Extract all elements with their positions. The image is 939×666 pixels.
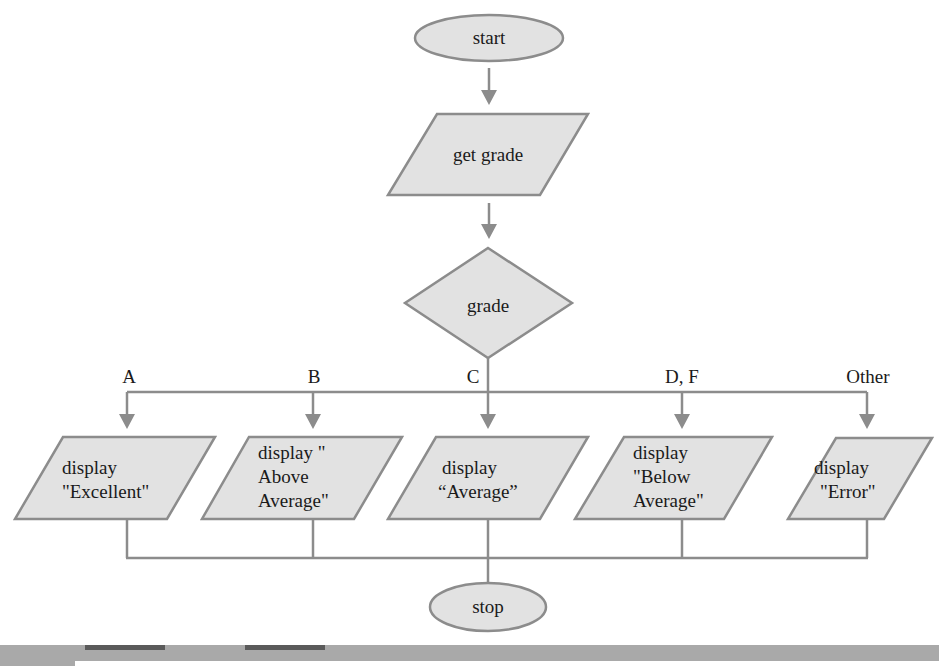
stop-terminal: stop [430,583,546,631]
start-label: start [473,27,506,48]
decision-label: grade [467,295,509,316]
output-excellent: display "Excellent" [15,437,215,519]
output-average: display “Average” [388,437,588,519]
footer-page-edge [75,661,939,666]
footer-accent-segment [245,645,325,650]
decision-grade: grade [405,248,572,358]
branch-arrows [119,392,875,429]
branch-label-other: Other [846,366,890,387]
input-get-grade: get grade [388,114,588,195]
input-label: get grade [453,144,523,165]
branch-label-c: C [467,366,480,387]
arrow-start-to-input [481,68,497,105]
output-error: display "Error" [788,438,932,519]
flowchart: start get grade grade A B C D, F Other [0,0,939,666]
branch-label-b: B [308,366,321,387]
branch-label-a: A [122,366,136,387]
stop-label: stop [472,596,504,617]
footer-accent-segment [85,645,165,650]
arrow-input-to-decision [481,203,497,239]
start-terminal: start [415,15,563,61]
merge-lines [126,519,868,583]
output-above-average: display " Above Average" [202,437,402,519]
branch-label-df: D, F [665,366,699,387]
output-below-average: display "Below Average" [575,437,772,519]
